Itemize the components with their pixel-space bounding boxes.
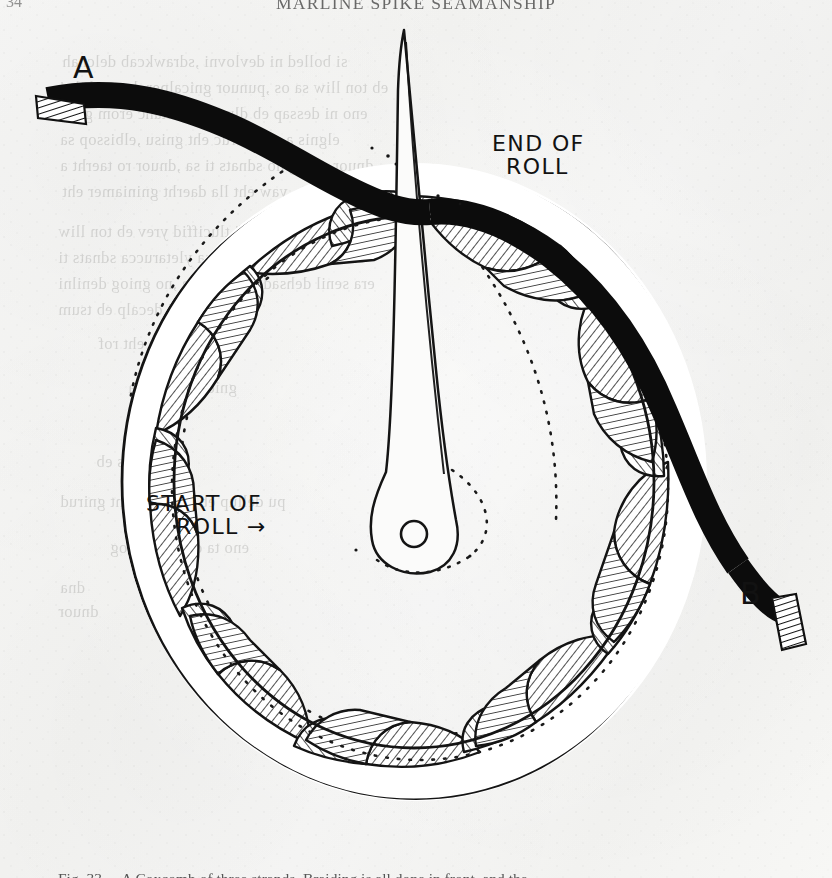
label-end-of-roll: END OF ROLL — [492, 132, 585, 179]
label-start-of-roll-line2: ROLL → — [146, 515, 267, 538]
label-start-of-roll: START OF ROLL → — [146, 492, 267, 539]
label-rope-end-b: B — [740, 578, 761, 610]
needle-eye — [401, 521, 427, 547]
figure-caption: Fig. 33.—A Coxcomb of three strands. Bra… — [58, 870, 774, 878]
label-end-of-roll-line2: ROLL — [492, 155, 585, 178]
label-end-of-roll-line1: END OF — [492, 131, 585, 156]
rope-a — [36, 95, 430, 212]
label-rope-end-a: A — [73, 52, 94, 84]
whipping-b — [772, 594, 806, 650]
scanned-book-page: si bolled ni devlovni ,sdrawkcab delcnah… — [0, 0, 832, 878]
fid — [371, 30, 458, 573]
label-start-of-roll-line1: START OF — [146, 491, 262, 516]
figure-33-coxcomb-diagram — [0, 0, 832, 878]
